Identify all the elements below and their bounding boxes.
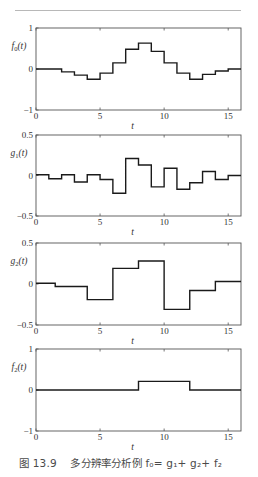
chart-panel-3: 051015−0.500.5g2(t)t <box>11 238 241 346</box>
caption-formula: f₀= g₁+ g₂+ f₂ <box>145 457 222 469</box>
plot-frame <box>36 135 241 216</box>
chart-panel-4: 051015−101f2(t)t <box>12 344 241 452</box>
plot-frame <box>36 28 241 110</box>
y-tick-label: −0.5 <box>17 320 34 330</box>
chart-panel-1: 051015−101f0(t)t <box>12 23 241 131</box>
y-tick-label: −0.5 <box>17 211 34 221</box>
caption-text: 多分辨率分析例 <box>70 457 141 469</box>
x-tick-label: 10 <box>160 326 170 336</box>
y-tick-label: 0 <box>29 171 34 181</box>
y-axis-label: f2(t) <box>12 362 27 373</box>
x-tick-label: 0 <box>34 326 39 336</box>
x-tick-label: 0 <box>34 217 39 227</box>
x-tick-label: 0 <box>34 432 39 442</box>
x-tick-label: 15 <box>224 326 234 336</box>
x-tick-label: 10 <box>160 217 170 227</box>
y-tick-label: 0 <box>29 64 34 74</box>
x-tick-label: 5 <box>98 111 103 121</box>
x-axis-label: t <box>131 442 134 452</box>
chart-panel-2: 051015−0.500.5g1(t)t <box>11 130 241 237</box>
y-axis-label: g2(t) <box>11 256 28 267</box>
y-tick-label: 1 <box>29 344 34 354</box>
figure-caption: 图 13.9 多分辨率分析例 f₀= g₁+ g₂+ f₂ <box>19 455 222 470</box>
x-tick-label: 0 <box>34 111 39 121</box>
x-tick-label: 5 <box>98 217 103 227</box>
step-series-line <box>36 158 241 193</box>
x-axis-label: t <box>131 121 134 131</box>
y-axis-label: g1(t) <box>11 148 28 159</box>
y-tick-label: 1 <box>29 23 34 33</box>
y-axis-label: f0(t) <box>12 41 27 52</box>
step-series-line <box>36 381 241 390</box>
y-tick-label: 0 <box>29 279 34 289</box>
x-tick-label: 10 <box>160 432 170 442</box>
x-tick-label: 5 <box>98 432 103 442</box>
plot-frame <box>36 243 241 325</box>
y-tick-label: 0 <box>29 385 34 395</box>
caption-figure-number: 图 13.9 <box>19 457 57 469</box>
x-axis-label: t <box>131 227 134 237</box>
figure-multiresolution: 051015−101f0(t)t051015−0.500.5g1(t)t0510… <box>0 0 258 477</box>
x-tick-label: 15 <box>224 432 234 442</box>
y-tick-label: 0.5 <box>22 130 34 140</box>
y-tick-label: 0.5 <box>22 238 34 248</box>
x-tick-label: 10 <box>160 111 170 121</box>
x-tick-label: 5 <box>98 326 103 336</box>
x-axis-label: t <box>131 336 134 346</box>
y-tick-label: −1 <box>23 426 33 436</box>
x-tick-label: 15 <box>224 217 234 227</box>
y-tick-label: −1 <box>23 105 33 115</box>
x-tick-label: 15 <box>224 111 234 121</box>
